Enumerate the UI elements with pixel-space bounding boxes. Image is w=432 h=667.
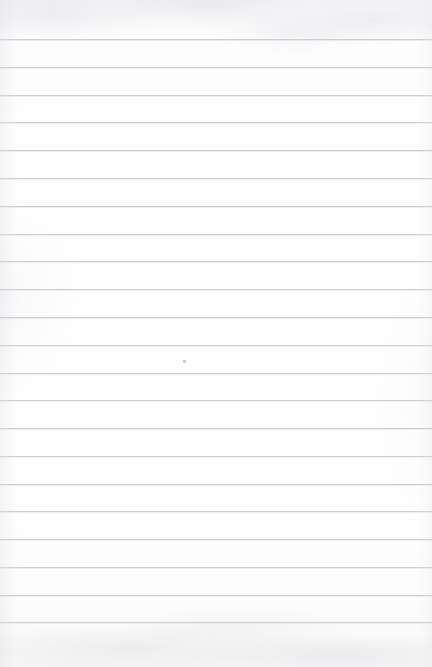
paper-background <box>0 0 432 667</box>
ruled-paper-sheet <box>0 0 432 667</box>
